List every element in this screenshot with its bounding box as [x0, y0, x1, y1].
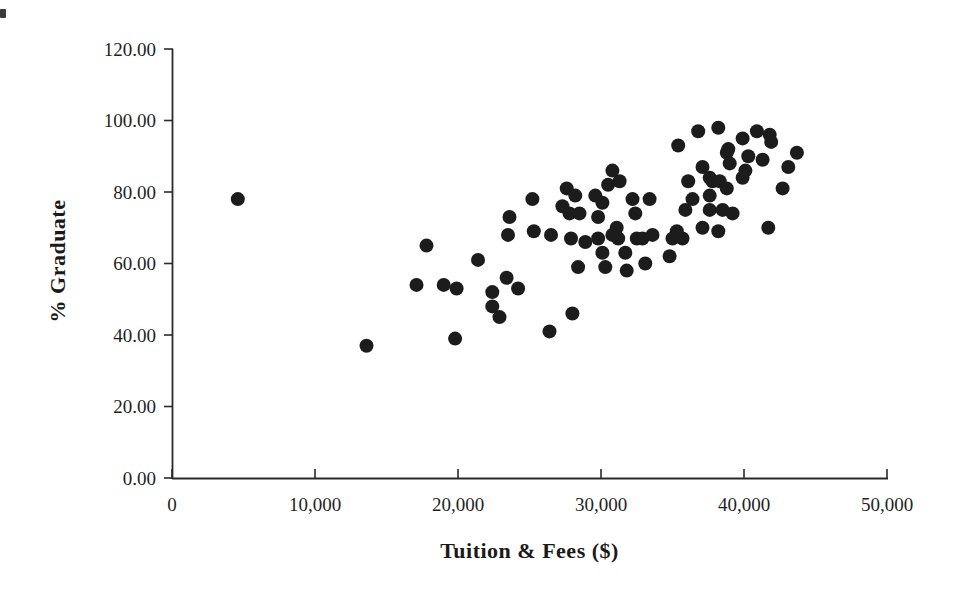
data-point: [738, 164, 752, 178]
x-tick-label: 20,000: [432, 494, 484, 515]
data-point: [696, 221, 710, 235]
data-point: [643, 192, 657, 206]
data-point: [598, 260, 612, 274]
data-point: [591, 232, 605, 246]
y-tick-label: 100.00: [104, 110, 156, 131]
data-point: [527, 224, 541, 238]
data-point: [605, 164, 619, 178]
x-axis-title: Tuition & Fees ($): [172, 538, 887, 564]
y-tick-label: 20.00: [113, 396, 156, 417]
x-tick-label: 40,000: [718, 494, 770, 515]
y-tick-label: 120.00: [104, 39, 156, 60]
data-point: [636, 232, 650, 246]
data-point: [776, 181, 790, 195]
data-point: [564, 232, 578, 246]
data-point: [681, 174, 695, 188]
data-point: [591, 210, 605, 224]
data-point: [493, 310, 507, 324]
data-point: [761, 221, 775, 235]
data-point: [670, 224, 684, 238]
data-point: [726, 206, 740, 220]
data-point: [628, 206, 642, 220]
y-tick-label: 80.00: [113, 182, 156, 203]
x-tick-label: 0: [167, 494, 177, 515]
data-point: [764, 135, 778, 149]
data-point: [678, 203, 692, 217]
data-point: [503, 210, 517, 224]
data-point: [578, 235, 592, 249]
data-point: [231, 192, 245, 206]
data-point: [410, 278, 424, 292]
data-point: [711, 121, 725, 135]
data-point: [703, 203, 717, 217]
data-point: [663, 249, 677, 263]
data-point: [595, 196, 609, 210]
data-point: [711, 224, 725, 238]
data-point: [565, 307, 579, 321]
y-axis-title: % Graduate: [45, 200, 71, 323]
data-point: [485, 285, 499, 299]
data-point: [573, 206, 587, 220]
data-point: [620, 264, 634, 278]
data-point: [618, 246, 632, 260]
data-point: [544, 228, 558, 242]
data-point: [736, 131, 750, 145]
x-tick-label: 10,000: [289, 494, 341, 515]
y-tick-label: 0.00: [123, 468, 156, 489]
data-point: [720, 181, 734, 195]
data-point: [626, 192, 640, 206]
data-point: [420, 239, 434, 253]
data-point: [781, 160, 795, 174]
y-tick-label: 40.00: [113, 325, 156, 346]
data-point: [437, 278, 451, 292]
data-point: [501, 228, 515, 242]
data-point: [543, 324, 557, 338]
data-point: [595, 246, 609, 260]
data-point: [638, 257, 652, 271]
scatter-figure: 0.0020.0040.0060.0080.00100.00120.00010,…: [0, 0, 967, 593]
y-tick-label: 60.00: [113, 253, 156, 274]
data-point: [511, 282, 525, 296]
data-point: [741, 149, 755, 163]
data-point: [450, 282, 464, 296]
data-point: [500, 271, 514, 285]
data-point: [671, 139, 685, 153]
x-tick-label: 30,000: [575, 494, 627, 515]
data-point: [360, 339, 374, 353]
data-point: [691, 124, 705, 138]
data-point: [525, 192, 539, 206]
data-point: [750, 124, 764, 138]
scatter-plot-canvas: 0.0020.0040.0060.0080.00100.00120.00010,…: [0, 0, 967, 593]
data-point: [756, 153, 770, 167]
data-point: [471, 253, 485, 267]
data-point: [703, 189, 717, 203]
data-point: [571, 260, 585, 274]
data-point: [790, 146, 804, 160]
data-point: [448, 332, 462, 346]
data-point: [605, 228, 619, 242]
data-point: [723, 156, 737, 170]
data-point: [568, 189, 582, 203]
x-tick-label: 50,000: [861, 494, 913, 515]
